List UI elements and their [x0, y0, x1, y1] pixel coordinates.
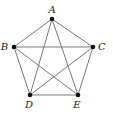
vertex-label-b: B [0, 41, 8, 52]
edge-c-e [78, 47, 93, 95]
edge-a-e [52, 19, 78, 95]
complete-graph-k5: ABCDE [0, 0, 113, 114]
edge-c-d [30, 47, 93, 95]
vertex-label-a: A [47, 4, 55, 15]
edges-group [14, 19, 93, 95]
edge-b-d [14, 47, 30, 95]
edge-a-c [52, 19, 93, 47]
vertex-e [76, 93, 81, 98]
vertex-label-c: C [98, 41, 106, 52]
vertex-a [50, 17, 55, 22]
vertex-label-d: D [24, 99, 33, 110]
edge-a-d [30, 19, 52, 95]
vertex-c [91, 45, 96, 50]
vertex-d [28, 93, 33, 98]
vertices-group [12, 17, 96, 98]
edge-b-e [14, 47, 78, 95]
edge-a-b [14, 19, 52, 47]
vertex-b [12, 45, 17, 50]
vertex-label-e: E [72, 99, 81, 110]
